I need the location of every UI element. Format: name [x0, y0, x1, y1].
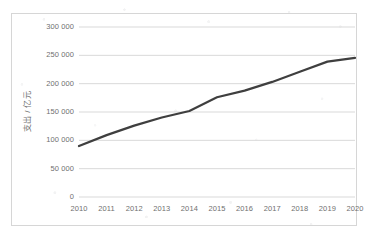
x-tick-label: 2014 — [176, 204, 202, 213]
y-axis-title: 支出 / 亿元 — [21, 82, 32, 142]
x-tick-label: 2012 — [121, 204, 147, 213]
y-tick-label: 250 000 — [20, 50, 74, 59]
x-tick-label: 2011 — [94, 204, 120, 213]
x-tick-label: 2010 — [66, 204, 92, 213]
x-tick-label: 2017 — [259, 204, 285, 213]
x-tick-label: 2019 — [314, 204, 340, 213]
y-tick-label: 50 000 — [20, 164, 74, 173]
expenditure-line-series — [79, 58, 355, 146]
chart-frame: 300 000250 000200 000150 000100 00050 00… — [11, 13, 357, 226]
gridlines-group — [79, 27, 355, 197]
y-tick-label: 0 — [20, 192, 74, 201]
x-tick-label: 2016 — [232, 204, 258, 213]
x-tick-label: 2020 — [342, 204, 366, 213]
x-tick-label: 2013 — [149, 204, 175, 213]
x-tick-label: 2015 — [204, 204, 230, 213]
x-tick-label: 2018 — [287, 204, 313, 213]
y-tick-label: 300 000 — [20, 22, 74, 31]
